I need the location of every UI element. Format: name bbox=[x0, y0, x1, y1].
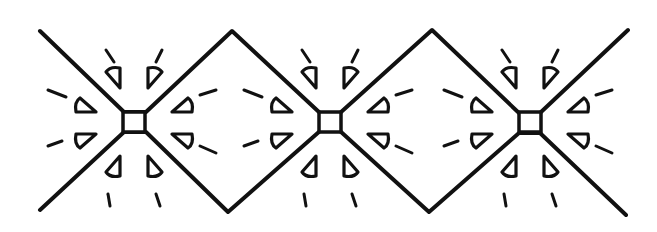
ray-tick bbox=[48, 90, 66, 97]
diamond-star-border-artwork bbox=[0, 0, 657, 232]
star-motifs bbox=[48, 50, 612, 206]
ray-tick bbox=[106, 50, 114, 62]
petal-wedge bbox=[172, 134, 193, 148]
center-square bbox=[319, 112, 341, 132]
ray-tick bbox=[302, 50, 310, 62]
petal-wedge bbox=[106, 156, 120, 177]
ray-tick bbox=[156, 194, 160, 206]
petal-wedge bbox=[106, 68, 120, 89]
ray-tick bbox=[552, 194, 556, 206]
petal-wedge bbox=[272, 134, 293, 148]
ray-tick bbox=[48, 141, 62, 146]
ray-tick bbox=[396, 90, 412, 95]
ray-tick bbox=[352, 194, 356, 206]
ray-tick bbox=[444, 90, 462, 97]
center-square bbox=[519, 112, 541, 132]
ray-tick bbox=[244, 90, 262, 97]
petal-wedge bbox=[502, 156, 516, 177]
ray-tick bbox=[304, 194, 306, 206]
ray-tick bbox=[596, 146, 612, 153]
petal-wedge bbox=[544, 68, 558, 89]
petal-wedge bbox=[302, 156, 316, 177]
zigzag-top-line bbox=[40, 30, 628, 113]
ray-tick bbox=[552, 50, 558, 62]
petal-wedge bbox=[272, 98, 293, 112]
ray-tick bbox=[502, 50, 510, 62]
petal-wedge bbox=[302, 68, 316, 89]
petal-wedge bbox=[172, 98, 193, 112]
petal-wedge bbox=[472, 134, 493, 148]
petal-wedge bbox=[344, 156, 358, 177]
petal-wedge bbox=[148, 68, 162, 89]
petal-wedge bbox=[368, 134, 389, 148]
petal-wedge bbox=[76, 98, 97, 112]
ray-tick bbox=[596, 90, 612, 95]
petal-wedge bbox=[368, 98, 389, 112]
ray-tick bbox=[504, 194, 506, 206]
ray-tick bbox=[156, 50, 162, 62]
petal-wedge bbox=[344, 68, 358, 89]
ray-tick bbox=[444, 141, 458, 146]
ray-tick bbox=[352, 50, 358, 62]
petal-wedge bbox=[76, 134, 97, 148]
motif-3 bbox=[444, 50, 612, 206]
ray-tick bbox=[244, 141, 258, 146]
ray-tick bbox=[200, 146, 216, 153]
petal-wedge bbox=[544, 156, 558, 177]
petal-wedge bbox=[568, 134, 589, 148]
ray-tick bbox=[396, 146, 412, 153]
center-square bbox=[123, 112, 145, 132]
petal-wedge bbox=[568, 98, 589, 112]
ray-tick bbox=[200, 90, 216, 95]
petal-wedge bbox=[502, 68, 516, 89]
petal-wedge bbox=[148, 156, 162, 177]
zigzag-bottom-line bbox=[40, 131, 626, 215]
motif-1 bbox=[48, 50, 216, 206]
petal-wedge bbox=[472, 98, 493, 112]
ray-tick bbox=[108, 194, 110, 206]
